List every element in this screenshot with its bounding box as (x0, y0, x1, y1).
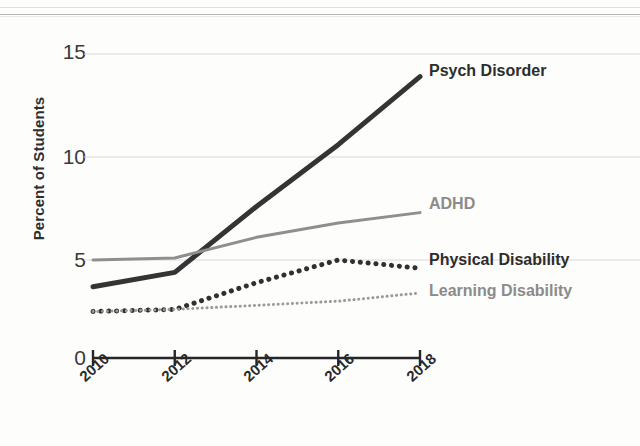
series-label-physical-disability: Physical Disability (429, 252, 570, 268)
series-label-adhd: ADHD (429, 196, 475, 212)
series-lines (93, 77, 420, 312)
x-axis (93, 350, 420, 366)
chart-figure: Percent of Students 15 10 5 0 2010 2012 … (0, 0, 640, 446)
series-label-psych-disorder: Psych Disorder (429, 63, 546, 79)
series-label-learning-disability: Learning Disability (429, 283, 572, 299)
gridlines (84, 54, 640, 260)
